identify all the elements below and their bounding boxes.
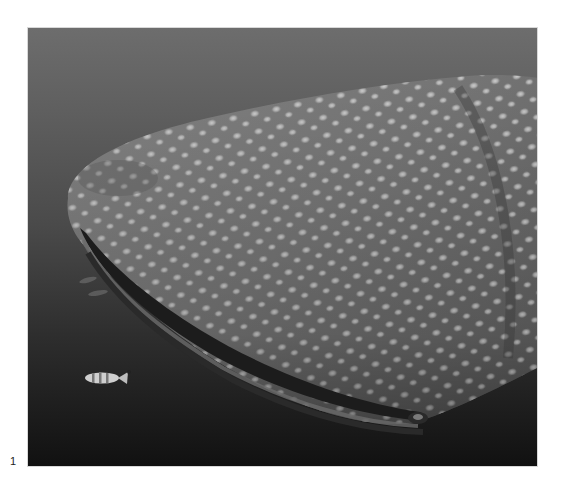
- whale-shark-photo: [28, 28, 537, 466]
- whale-shark-illustration: [28, 28, 537, 466]
- figure-number: 1: [10, 456, 16, 467]
- pilot-fish: [85, 370, 131, 384]
